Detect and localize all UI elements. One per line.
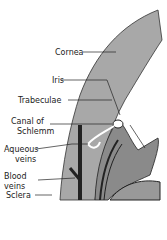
label-cornea: Cornea (55, 48, 84, 57)
label-sclera: Sclera (6, 191, 31, 200)
blood-vein (78, 125, 82, 200)
label-canal-line2: Schlemm (17, 127, 54, 136)
label-blood-line2: veins (4, 182, 25, 191)
label-blood-line1: Blood (4, 172, 27, 181)
label-iris: Iris (52, 76, 64, 85)
label-aqueous-line1: Aqueous (4, 145, 39, 154)
label-aqueous-line2: veins (15, 155, 36, 164)
label-trabeculae: Trabeculae (18, 96, 61, 105)
label-canal-line1: Canal of (11, 117, 44, 126)
